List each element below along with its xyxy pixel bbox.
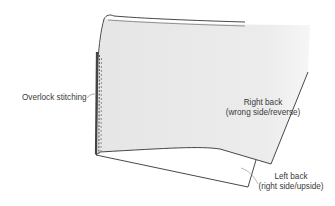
left-back-label-line1: Left back xyxy=(246,172,335,182)
left-back-label: Left back (right side/upside) xyxy=(246,172,335,192)
overlock-leader-line xyxy=(87,94,95,98)
overlock-label: Overlock stitching xyxy=(22,93,87,103)
right-back-label-line1: Right back xyxy=(208,98,318,108)
right-back-label: Right back (wrong side/reverse) xyxy=(208,98,318,118)
right-back-panel xyxy=(96,19,310,164)
right-back-label-line2: (wrong side/reverse) xyxy=(208,108,318,118)
left-back-label-line2: (right side/upside) xyxy=(246,182,335,192)
left-back-panel-outline xyxy=(96,155,256,187)
